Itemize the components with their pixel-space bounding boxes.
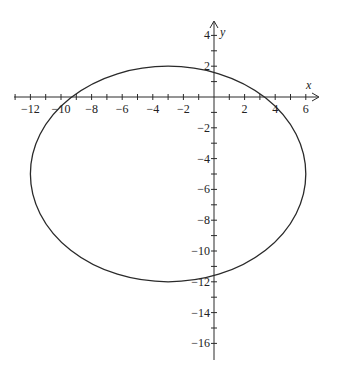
y-tick-label: −16 [191,336,210,350]
y-tick-label: −8 [197,213,210,227]
x-tick-label: 6 [303,102,309,116]
axes [14,21,319,360]
y-tick-label: 4 [204,28,210,42]
x-tick-label: −8 [85,102,98,116]
x-tick-label: −6 [116,102,129,116]
x-tick-label: 4 [272,102,278,116]
x-tick-label: 2 [242,102,248,116]
x-axis-label: x [305,78,312,92]
tick-labels: −12−10−8−6−4−224642−2−4−6−8−10−12−14−16x… [21,25,312,350]
y-tick-label: −6 [197,182,210,196]
y-tick-label: −4 [197,152,210,166]
y-tick-label: −14 [191,306,210,320]
x-tick-label: −10 [52,102,71,116]
y-axis-label: y [219,25,226,39]
x-tick-label: −4 [146,102,159,116]
y-tick-label: −12 [191,275,210,289]
y-tick-label: −2 [197,121,210,135]
y-tick-label: −10 [191,244,210,258]
x-tick-label: −12 [21,102,40,116]
ellipse-chart: −12−10−8−6−4−224642−2−4−6−8−10−12−14−16x… [0,0,339,373]
y-tick-label: 2 [204,59,210,73]
x-tick-label: −2 [177,102,190,116]
